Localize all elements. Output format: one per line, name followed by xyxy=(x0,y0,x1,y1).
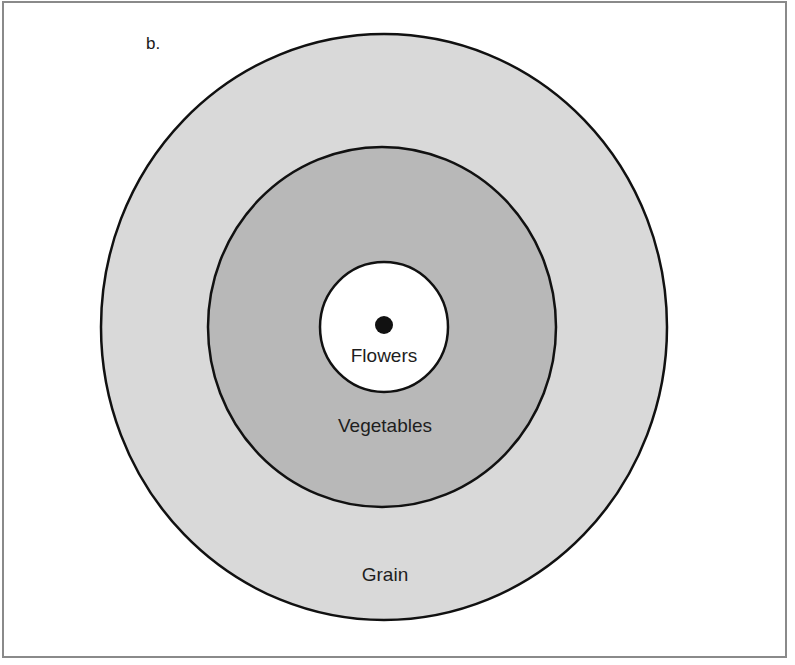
label-flowers: Flowers xyxy=(351,345,418,367)
panel-label: b. xyxy=(146,34,160,54)
center-dot-icon xyxy=(375,316,393,334)
label-vegetables: Vegetables xyxy=(338,415,432,437)
label-grain: Grain xyxy=(362,564,408,586)
